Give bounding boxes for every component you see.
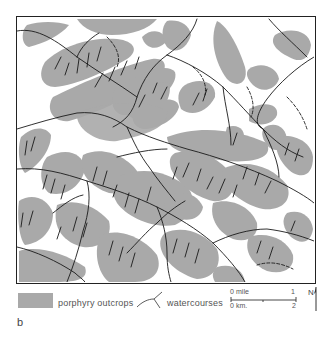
map-frame bbox=[16, 16, 316, 284]
legend-label-porphyry: porphyry outcrops bbox=[58, 298, 133, 308]
legend: porphyry outcrops watercourses 0 mile 1 … bbox=[0, 288, 335, 318]
scale-bar: 0 mile 1 0 km. 2 bbox=[230, 288, 300, 316]
map-canvas bbox=[17, 17, 314, 282]
scale-km-unit: km. bbox=[236, 302, 247, 309]
scale-mile-end: 1 bbox=[291, 288, 295, 295]
porphyry-outcrop-swatch bbox=[18, 293, 53, 308]
porphyry-outcrops bbox=[18, 19, 313, 282]
scale-mile-zero: 0 bbox=[230, 288, 234, 295]
watercourse-symbol-icon bbox=[136, 290, 166, 310]
figure-label: b bbox=[17, 316, 23, 328]
scale-km-zero: 0 bbox=[230, 302, 234, 309]
scale-mile-unit: mile bbox=[236, 288, 249, 295]
north-arrow-icon bbox=[313, 286, 319, 312]
scale-km-end: 2 bbox=[292, 302, 296, 309]
legend-label-watercourses: watercourses bbox=[167, 298, 223, 308]
